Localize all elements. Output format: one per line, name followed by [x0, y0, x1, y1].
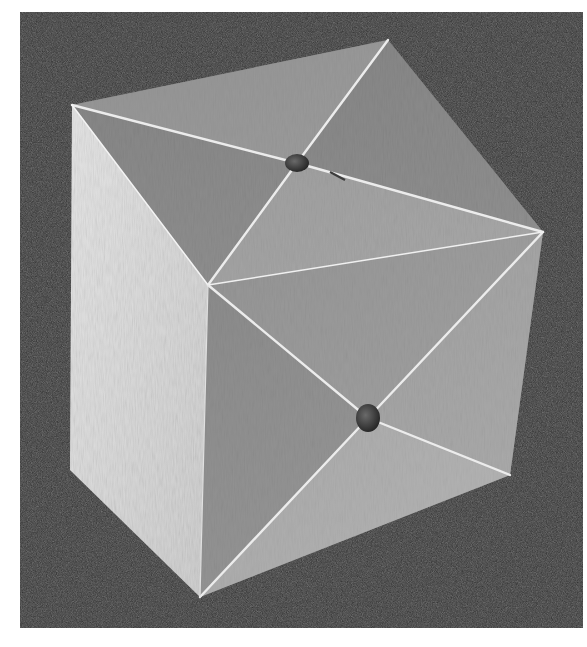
- top-face-peg: [285, 154, 309, 172]
- cube-photograph: [0, 0, 587, 647]
- front-face-peg: [356, 404, 380, 432]
